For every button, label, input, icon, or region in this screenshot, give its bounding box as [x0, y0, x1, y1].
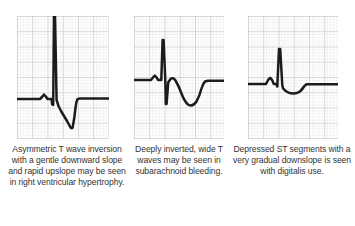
ecg-trace-svg-3 — [248, 16, 338, 139]
ecg-caption-3: Depressed ST segments with a very gradua… — [232, 144, 352, 177]
ecg-grid-3 — [248, 16, 338, 139]
ecg-strip-2 — [134, 16, 224, 139]
ecg-figure: Asymmetric T wave inversion with a gentl… — [0, 0, 355, 226]
ecg-strip-1 — [17, 16, 109, 139]
ecg-caption-1: Asymmetric T wave inversion with a gentl… — [6, 144, 128, 188]
ecg-trace-svg-2 — [134, 16, 224, 139]
ecg-caption-2: Deeply inverted, wide T waves may be see… — [131, 144, 227, 177]
ecg-strip-3 — [248, 16, 338, 139]
ecg-trace-svg-1 — [17, 16, 109, 139]
ecg-grid-2 — [134, 16, 224, 139]
ecg-grid-1 — [17, 16, 109, 139]
